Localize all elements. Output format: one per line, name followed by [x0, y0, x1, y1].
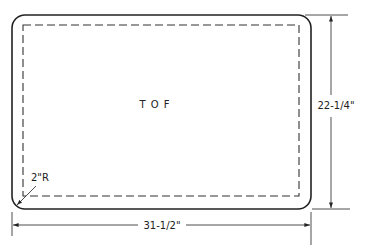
inner-dashed-outline	[23, 25, 299, 196]
outer-outline	[12, 15, 311, 209]
width-dimension-label: 31-1/2"	[143, 220, 180, 231]
table-top-drawing: T O F 2"R 22-1/4" 31-1/2"	[0, 0, 370, 251]
panel-label: T O F	[138, 99, 170, 110]
height-dimension-label: 22-1/4"	[317, 100, 354, 111]
radius-label: 2"R	[31, 172, 49, 183]
